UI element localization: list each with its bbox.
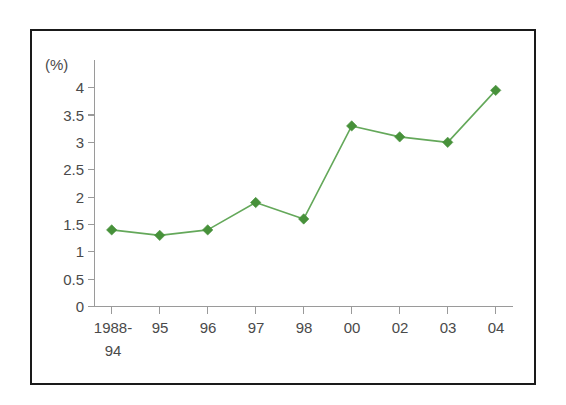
data-point-marker bbox=[155, 230, 165, 240]
y-tick-label: 1 bbox=[76, 243, 84, 260]
x-tick-label: 97 bbox=[248, 319, 265, 336]
axes bbox=[95, 60, 514, 307]
x-tick-label: 96 bbox=[200, 319, 217, 336]
data-series-group bbox=[107, 85, 501, 240]
data-point-marker bbox=[203, 225, 213, 235]
data-point-marker bbox=[347, 121, 357, 131]
y-tick-label: 1.5 bbox=[63, 216, 84, 233]
line-chart: (%) 0 0.5 1 bbox=[0, 0, 566, 405]
data-point-marker bbox=[299, 214, 309, 224]
data-point-marker bbox=[251, 197, 261, 207]
y-tick-label: 0.5 bbox=[63, 271, 84, 288]
x-axis-tick-labels: 1988- 94 95 96 97 98 00 02 03 04 bbox=[94, 319, 505, 359]
y-tick-label: 4 bbox=[76, 79, 84, 96]
y-tick-label: 3.5 bbox=[63, 107, 84, 124]
y-tick-label: 3 bbox=[76, 134, 84, 151]
screenshot-root: (%) 0 0.5 1 bbox=[0, 0, 566, 405]
chart-svg: (%) 0 0.5 1 bbox=[0, 0, 566, 405]
series-markers bbox=[107, 85, 501, 240]
x-tick-label: 1988- bbox=[94, 319, 132, 336]
x-tick-label: 03 bbox=[440, 319, 457, 336]
x-tick-label: 02 bbox=[392, 319, 409, 336]
y-axis-tick-labels: 0 0.5 1 1.5 2 2.5 3 3.5 4 bbox=[63, 79, 84, 315]
data-point-marker bbox=[395, 132, 405, 142]
x-tick-label: 98 bbox=[296, 319, 313, 336]
y-tick-label: 0 bbox=[76, 298, 84, 315]
x-tick-label: 04 bbox=[488, 319, 505, 336]
y-axis-unit-label: (%) bbox=[45, 56, 68, 73]
x-tick-label-second-line: 94 bbox=[105, 342, 122, 359]
y-tick-label: 2.5 bbox=[63, 161, 84, 178]
x-axis-ticks bbox=[112, 307, 496, 315]
y-tick-label: 2 bbox=[76, 189, 84, 206]
x-tick-label: 95 bbox=[152, 319, 169, 336]
data-point-marker bbox=[107, 225, 117, 235]
x-tick-label: 00 bbox=[344, 319, 361, 336]
